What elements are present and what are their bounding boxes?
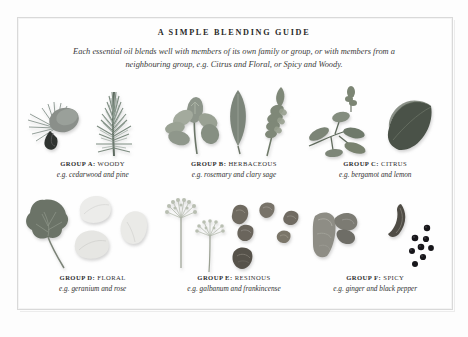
subtitle-line-1: Each essential oil blends well with memb… — [73, 47, 339, 56]
group-b-letter: GROUP B: — [191, 160, 226, 167]
resin-lump-specimen-5 — [275, 228, 293, 246]
rose-petal-specimen-1 — [76, 194, 114, 226]
group-cell-d: GROUP D: FLORAL e.g. geranium and rose — [22, 194, 163, 293]
group-b-name: HERBACEOUS — [228, 160, 276, 167]
group-b-specimens — [163, 84, 304, 160]
group-d-example: e.g. geranium and rose — [22, 284, 163, 293]
page-title: A SIMPLE BLENDING GUIDE — [0, 28, 468, 37]
group-a-specimens — [22, 84, 163, 160]
group-a-name: WOODY — [98, 160, 126, 167]
large-glossy-leaf-specimen — [381, 94, 439, 156]
group-e-name: RESINOUS — [235, 274, 271, 281]
pine-cone-specimen — [26, 98, 88, 154]
geranium-leaf-specimen — [22, 196, 78, 272]
group-cell-e: GROUP E: RESINOUS e.g. galbanum and fran… — [163, 194, 304, 293]
sage-leaf-specimen — [221, 88, 255, 156]
group-c-example: e.g. bergamot and lemon — [305, 170, 446, 179]
group-d-letter: GROUP D: — [60, 274, 96, 281]
group-d-name: FLORAL — [97, 274, 125, 281]
group-c-labels: GROUP C: CITRUS e.g. bergamot and lemon — [305, 160, 446, 179]
galbanum-umbel-specimen-2 — [195, 220, 227, 274]
group-cell-f: GROUP F: SPICY e.g. ginger and black pep… — [305, 194, 446, 293]
pine-needle-sprig-specimen — [84, 86, 144, 158]
group-d-labels: GROUP D: FLORAL e.g. geranium and rose — [22, 274, 163, 293]
group-b-labels: GROUP B: HERBACEOUS e.g. rosemary and cl… — [163, 160, 304, 179]
group-c-name: CITRUS — [381, 160, 407, 167]
groups-row-top: GROUP A: WOODY e.g. cedarwood and pine — [22, 84, 446, 179]
sage-sprig-specimen — [165, 96, 221, 156]
rose-petal-specimen-3 — [118, 208, 150, 246]
group-a-example: e.g. cedarwood and pine — [22, 170, 163, 179]
ginger-root-specimen — [309, 204, 371, 264]
galbanum-umbel-specimen-1 — [165, 198, 199, 270]
group-a-label: GROUP A: WOODY — [22, 160, 163, 167]
group-e-example: e.g. galbanum and frankincense — [163, 284, 304, 293]
group-f-name: SPICY — [383, 274, 404, 281]
resin-lump-specimen-3 — [281, 208, 301, 228]
peppercorn-cluster-specimen — [401, 224, 441, 270]
group-d-label: GROUP D: FLORAL — [22, 274, 163, 281]
rose-petal-specimen-2 — [72, 228, 112, 262]
group-f-specimens — [305, 194, 446, 274]
group-cell-c: GROUP C: CITRUS e.g. bergamot and lemon — [305, 84, 446, 179]
resin-lump-specimen-2 — [257, 200, 277, 220]
clary-sage-flower-spike-specimen — [257, 84, 299, 158]
group-d-specimens — [22, 194, 163, 274]
group-e-specimens — [163, 194, 304, 274]
group-b-label: GROUP B: HERBACEOUS — [163, 160, 304, 167]
small-bud-spike-specimen — [343, 84, 359, 114]
group-f-labels: GROUP F: SPICY e.g. ginger and black pep… — [305, 274, 446, 293]
group-e-letter: GROUP E: — [197, 274, 232, 281]
page-subtitle: Each essential oil blends well with memb… — [64, 46, 404, 71]
resin-lump-specimen-4 — [235, 222, 257, 244]
resin-lump-specimen-6 — [229, 244, 257, 272]
citrus-twig-with-leaves-specimen — [305, 104, 375, 158]
group-c-specimens — [305, 84, 446, 160]
group-c-letter: GROUP C: — [343, 160, 379, 167]
group-cell-b: GROUP B: HERBACEOUS e.g. rosemary and cl… — [163, 84, 304, 179]
group-f-letter: GROUP F: — [346, 274, 381, 281]
group-a-letter: GROUP A: — [60, 160, 95, 167]
group-f-example: e.g. ginger and black pepper — [305, 284, 446, 293]
group-e-label: GROUP E: RESINOUS — [163, 274, 304, 281]
group-c-label: GROUP C: CITRUS — [305, 160, 446, 167]
blending-guide-page: A SIMPLE BLENDING GUIDE Each essential o… — [0, 0, 468, 337]
group-f-label: GROUP F: SPICY — [305, 274, 446, 281]
group-cell-a: GROUP A: WOODY e.g. cedarwood and pine — [22, 84, 163, 179]
group-a-labels: GROUP A: WOODY e.g. cedarwood and pine — [22, 160, 163, 179]
groups-row-bottom: GROUP D: FLORAL e.g. geranium and rose — [22, 194, 446, 293]
group-e-labels: GROUP E: RESINOUS e.g. galbanum and fran… — [163, 274, 304, 293]
group-b-example: e.g. rosemary and clary sage — [163, 170, 304, 179]
